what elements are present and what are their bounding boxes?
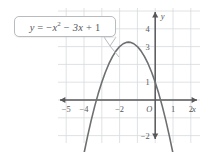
equation-callout: y = −x2 − 3x + 1 (14, 16, 116, 37)
svg-text:1: 1 (171, 105, 175, 114)
svg-text:−2: −2 (141, 132, 150, 141)
equation-text: y = −x2 − 3x + 1 (30, 20, 101, 33)
graph-figure: −5−4−212431−2Oxy y = −x2 − 3x + 1 (0, 0, 210, 152)
svg-text:−4: −4 (80, 105, 90, 114)
svg-text:−2: −2 (115, 105, 124, 114)
svg-text:O: O (146, 105, 152, 114)
svg-text:4: 4 (146, 25, 151, 34)
svg-text:1: 1 (146, 78, 150, 87)
svg-text:x: x (191, 104, 196, 114)
svg-text:−5: −5 (62, 105, 71, 114)
svg-text:y: y (160, 11, 165, 21)
svg-text:3: 3 (146, 43, 150, 52)
